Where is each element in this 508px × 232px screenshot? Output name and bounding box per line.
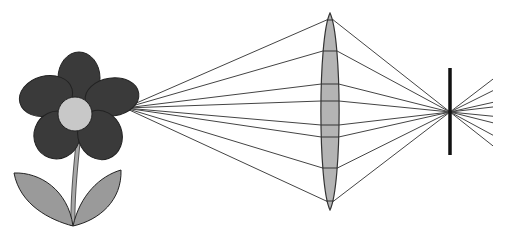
flower-object [14,52,141,226]
right-leaf [73,170,121,226]
diagram-canvas [0,0,508,232]
convex-lens [321,13,339,210]
light-rays [125,20,493,201]
light-ray [125,51,493,135]
flower-center [58,97,92,131]
light-ray [125,20,493,146]
light-ray [125,84,493,123]
left-leaf [14,173,73,226]
light-ray [125,102,493,137]
light-ray [125,79,493,201]
